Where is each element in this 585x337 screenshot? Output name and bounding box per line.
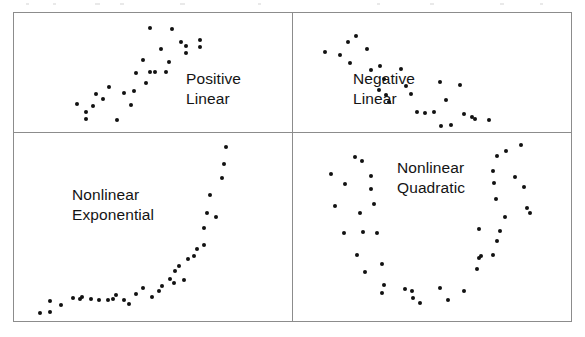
scatter-dot bbox=[159, 47, 163, 51]
scatter-dot bbox=[477, 227, 481, 231]
scatter-dot bbox=[198, 38, 202, 42]
panel-label-nonlinear-quadratic: Nonlinear Quadratic bbox=[397, 158, 465, 198]
scatter-dot bbox=[462, 112, 466, 116]
scatter-dot bbox=[122, 298, 126, 302]
panel-nonlinear-exponential: Nonlinear Exponential bbox=[14, 133, 292, 321]
panel-label-positive-linear: Positive Linear bbox=[186, 69, 241, 109]
scatter-dot bbox=[375, 231, 379, 235]
scatter-dot bbox=[122, 91, 126, 95]
scatter-dot bbox=[164, 70, 168, 74]
scatter-dot bbox=[418, 301, 422, 305]
scatter-dot bbox=[91, 104, 95, 108]
scatter-dot bbox=[439, 124, 443, 128]
scatter-dot bbox=[84, 110, 88, 114]
panel-label-line-2: Linear bbox=[186, 89, 241, 109]
scatter-dot bbox=[94, 92, 98, 96]
scatter-dot bbox=[462, 289, 466, 293]
scatter-dot bbox=[353, 155, 357, 159]
scatter-dot bbox=[333, 204, 337, 208]
scatter-dot bbox=[446, 298, 450, 302]
scatter-dot bbox=[323, 50, 327, 54]
panel-label-line-2: Exponential bbox=[72, 205, 154, 225]
scatter-dot bbox=[498, 229, 502, 233]
panel-label-line-1: Negative bbox=[353, 69, 415, 89]
scatter-dot bbox=[48, 299, 52, 303]
scatter-dot bbox=[491, 169, 495, 173]
scatter-dot bbox=[205, 211, 209, 215]
scatter-dot bbox=[495, 239, 499, 243]
scatter-dot bbox=[106, 298, 110, 302]
scan-speckle bbox=[53, 3, 56, 5]
scan-speckle bbox=[430, 3, 434, 5]
panel-negative-linear: Negative Linear bbox=[293, 13, 571, 132]
scatter-dot bbox=[503, 215, 507, 219]
scatter-dot bbox=[403, 287, 407, 291]
scan-speckle bbox=[95, 3, 100, 5]
panel-label-line-2: Linear bbox=[353, 89, 415, 109]
scatter-dot bbox=[220, 176, 224, 180]
scatter-dot bbox=[184, 51, 188, 55]
panel-positive-linear: Positive Linear bbox=[14, 13, 292, 132]
panel-label-negative-linear: Negative Linear bbox=[353, 69, 415, 109]
scatter-dot bbox=[198, 45, 202, 49]
scatter-dot bbox=[101, 97, 105, 101]
scatter-dot bbox=[410, 289, 414, 293]
panel-label-line-1: Nonlinear bbox=[397, 158, 465, 178]
scatter-dot bbox=[157, 289, 161, 293]
scatter-dot bbox=[173, 269, 177, 273]
scatter-dot bbox=[75, 102, 79, 106]
scatter-dot bbox=[348, 61, 352, 65]
scatter-dot bbox=[59, 303, 63, 307]
scatter-dot bbox=[84, 117, 88, 121]
scatter-dot bbox=[134, 292, 138, 296]
scatter-dot bbox=[224, 145, 228, 149]
scatter-dot bbox=[354, 34, 358, 38]
scatter-dot bbox=[458, 83, 462, 87]
scan-speckle bbox=[377, 3, 380, 5]
scatter-dot bbox=[360, 159, 364, 163]
scatter-dot bbox=[111, 297, 115, 301]
scan-speckle bbox=[120, 3, 124, 5]
scan-speckle bbox=[258, 3, 261, 5]
scatter-dot bbox=[107, 85, 111, 89]
scatter-dot bbox=[195, 247, 199, 251]
scatter-dot bbox=[115, 118, 119, 122]
scatter-dot bbox=[186, 257, 190, 261]
scatter-dot bbox=[415, 110, 419, 114]
scatter-dot bbox=[346, 40, 350, 44]
scatter-dot bbox=[423, 111, 427, 115]
scatter-dot bbox=[38, 311, 42, 315]
scatter-dot bbox=[150, 295, 154, 299]
scatter-dot bbox=[438, 80, 442, 84]
scatter-dot bbox=[89, 297, 93, 301]
scatter-dot bbox=[127, 302, 131, 306]
scatter-dot bbox=[369, 174, 373, 178]
scan-speckle bbox=[500, 3, 504, 5]
scatter-dot bbox=[519, 143, 523, 147]
scatter-dot bbox=[167, 60, 171, 64]
scatter-dot bbox=[369, 187, 373, 191]
scatter-dot bbox=[160, 284, 164, 288]
scatter-dot bbox=[363, 270, 367, 274]
scatter-dot bbox=[343, 182, 347, 186]
scatter-dot bbox=[148, 70, 152, 74]
scatter-dot bbox=[179, 40, 183, 44]
scatter-dot bbox=[141, 286, 145, 290]
scatter-dot bbox=[380, 291, 384, 295]
scatter-dot bbox=[525, 206, 529, 210]
panel-label-nonlinear-exponential: Nonlinear Exponential bbox=[72, 185, 154, 225]
scatter-dot bbox=[153, 70, 157, 74]
scatter-dot bbox=[492, 181, 496, 185]
scan-speckle bbox=[26, 3, 29, 5]
scatter-dot bbox=[148, 26, 152, 30]
scatter-dot bbox=[382, 283, 386, 287]
scatter-dot bbox=[522, 185, 526, 189]
scatter-dot bbox=[141, 58, 145, 62]
scatter-dot bbox=[170, 27, 174, 31]
scatter-dot bbox=[134, 71, 138, 75]
scan-speckle bbox=[540, 3, 543, 5]
scatter-dot bbox=[411, 296, 415, 300]
scatter-dot bbox=[192, 254, 196, 258]
scatter-dot bbox=[361, 230, 365, 234]
scatter-dot bbox=[432, 110, 436, 114]
